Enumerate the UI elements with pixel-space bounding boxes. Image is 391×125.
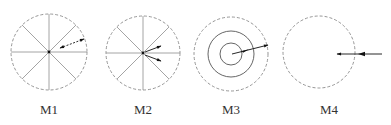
figure-canvas: M1 M2 M3 M4 bbox=[0, 0, 391, 125]
double-headed-arrow bbox=[60, 39, 84, 48]
panel-m1 bbox=[11, 14, 87, 90]
inward-arrowhead-right bbox=[358, 52, 365, 56]
mid-arrowhead bbox=[242, 49, 249, 53]
label-m1: M1 bbox=[29, 102, 69, 118]
dashed-boundary-circle bbox=[194, 17, 268, 91]
middle-solid-circle bbox=[208, 31, 254, 77]
panel-m4 bbox=[283, 16, 382, 88]
center-point bbox=[48, 51, 51, 54]
dashed-boundary-circle bbox=[283, 16, 355, 88]
label-m2: M2 bbox=[123, 102, 163, 118]
outward-arrow bbox=[232, 45, 268, 54]
center-point bbox=[142, 52, 145, 55]
panel-m2 bbox=[106, 16, 180, 90]
inner-solid-circle bbox=[220, 43, 242, 65]
label-m4: M4 bbox=[309, 102, 349, 118]
label-m3: M3 bbox=[211, 102, 251, 118]
panel-m3 bbox=[194, 17, 268, 91]
